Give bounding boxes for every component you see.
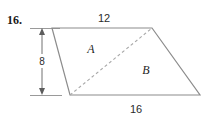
geometry-problem-figure: 16. 12 16 8 A B [0, 0, 216, 119]
arrowhead-down-icon [39, 88, 45, 95]
quadrilateral-outline [52, 28, 200, 95]
top-side-label: 12 [98, 12, 110, 24]
diagonal-divider [70, 28, 152, 95]
region-label-b: B [142, 63, 150, 77]
bottom-side-label: 16 [130, 103, 142, 115]
quadrilateral-diagram: 12 16 8 A B [0, 0, 216, 119]
arrowhead-up-icon [39, 28, 45, 35]
height-label: 8 [39, 56, 45, 67]
region-label-a: A [86, 42, 95, 56]
